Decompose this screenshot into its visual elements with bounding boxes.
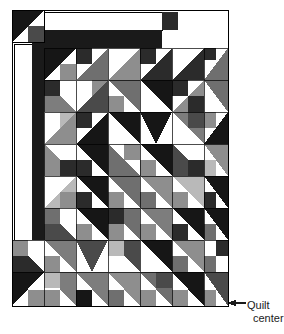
block-r6c4 xyxy=(140,240,172,272)
block-row-4 xyxy=(44,176,228,208)
block-r3c0 xyxy=(44,144,76,176)
block-r3c4 xyxy=(172,144,204,176)
quilt-diagram: Quilt center xyxy=(0,0,284,334)
block-row-1 xyxy=(44,80,228,112)
block-r5c3 xyxy=(140,208,172,240)
inner-border-top xyxy=(32,30,162,48)
block-r2c1 xyxy=(76,112,108,144)
block-r7c5 xyxy=(172,272,228,306)
block-r0c3 xyxy=(140,48,172,80)
block-r4c2 xyxy=(108,176,140,208)
block-row-6 xyxy=(12,240,228,272)
block-r1c0 xyxy=(44,80,76,112)
block-row-0 xyxy=(44,48,228,80)
block-r5c2 xyxy=(108,208,140,240)
block-r3c5 xyxy=(204,144,228,176)
block-r6c2 xyxy=(76,240,108,272)
block-r4c3 xyxy=(140,176,172,208)
block-r3c2 xyxy=(108,144,140,176)
block-r0c2 xyxy=(108,48,140,80)
block-r1c2 xyxy=(108,80,140,112)
block-row-3 xyxy=(44,144,228,176)
block-r1c5 xyxy=(204,80,228,112)
quilt-center-label: Quilt center xyxy=(247,299,284,325)
block-r3c3 xyxy=(140,144,172,176)
block-r2c0 xyxy=(44,112,76,144)
block-r2c4 xyxy=(172,112,204,144)
block-r2c3 xyxy=(140,112,172,144)
corner-gray-square xyxy=(28,26,44,42)
block-r2c5 xyxy=(204,112,228,144)
block-r7c2 xyxy=(76,272,108,306)
block-r5c4 xyxy=(172,208,204,240)
block-r2c2 xyxy=(108,112,140,144)
outer-border-top xyxy=(44,12,162,30)
block-r1c4 xyxy=(172,80,204,112)
block-r5c1 xyxy=(76,208,108,240)
outer-border-left xyxy=(14,44,32,240)
block-r0c4 xyxy=(172,48,204,80)
block-r0c0 xyxy=(44,48,76,80)
block-r6c3 xyxy=(108,240,140,272)
block-r4c0 xyxy=(44,176,76,208)
block-r5c0 xyxy=(44,208,76,240)
block-r1c3 xyxy=(140,80,172,112)
block-r3c1 xyxy=(76,144,108,176)
block-r7c0 xyxy=(12,272,44,306)
block-r6c5 xyxy=(172,240,228,272)
block-row-5 xyxy=(44,208,228,240)
block-r4c5 xyxy=(204,176,228,208)
block-r7c3 xyxy=(108,272,140,306)
block-r4c1 xyxy=(76,176,108,208)
block-r0c1 xyxy=(76,48,108,80)
block-row-7 xyxy=(12,272,228,306)
quilt-center-label-line1: Quilt xyxy=(247,299,284,312)
block-r7c4 xyxy=(140,272,172,306)
block-r7c1 xyxy=(44,272,76,306)
block-row-2 xyxy=(44,112,228,144)
inner-border-left xyxy=(32,30,44,240)
quilt-assembly-graphic xyxy=(0,0,284,334)
block-r5c5 xyxy=(204,208,228,240)
block-r0c5 xyxy=(204,48,228,80)
block-r6c0 xyxy=(12,240,76,272)
quilt-body xyxy=(12,10,228,306)
top-border-end-square xyxy=(162,12,178,30)
border-corner-block xyxy=(12,10,44,42)
block-r1c1 xyxy=(76,80,108,112)
block-r4c4 xyxy=(172,176,204,208)
quilt-center-label-line2: center xyxy=(247,312,284,325)
block-grid xyxy=(12,48,228,306)
